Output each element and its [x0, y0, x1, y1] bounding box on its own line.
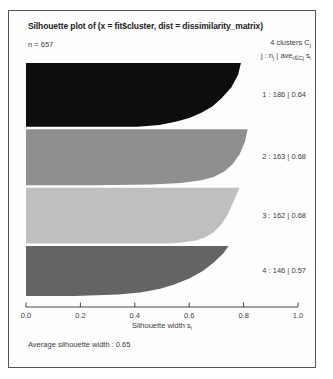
cluster-1-silhouette — [26, 63, 241, 127]
cluster-3-silhouette — [26, 188, 240, 244]
cluster-1-stats-label: 1 : 186 | 0.64 — [262, 90, 306, 99]
x-axis-tick-label-0.4: 0.4 — [130, 311, 140, 320]
silhouette-plot-page: Silhouette plot of (x = fit$cluster, dis… — [0, 0, 333, 379]
x-axis-title: Silhouette width si — [132, 321, 192, 332]
cluster-3-stats-label: 3 : 162 | 0.68 — [262, 211, 306, 220]
x-axis-tick-label-0.2: 0.2 — [75, 311, 85, 320]
x-axis-tick-label-0.0: 0.0 — [21, 311, 31, 320]
x-axis-title-text: Silhouette width s — [132, 321, 191, 330]
cluster-2-silhouette — [26, 129, 248, 185]
cluster-4-stats-label: 4 : 146 | 0.57 — [262, 266, 306, 275]
cluster-2-stats-label: 2 : 163 | 0.68 — [262, 152, 306, 161]
x-axis-tick-label-1.0: 1.0 — [293, 311, 303, 320]
x-axis-title-subscript: i — [191, 325, 192, 331]
cluster-4-silhouette — [26, 246, 229, 296]
x-axis-tick-label-0.8: 0.8 — [238, 311, 248, 320]
average-silhouette-width-label: Average silhouette width : 0.65 — [28, 340, 130, 349]
x-axis-tick-label-0.6: 0.6 — [184, 311, 194, 320]
